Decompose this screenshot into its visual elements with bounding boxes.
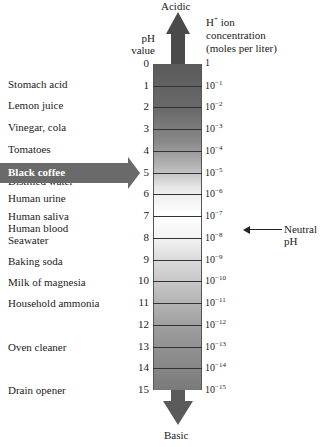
basic-arrow-icon xyxy=(163,401,193,425)
ph-value: 14 xyxy=(129,361,149,373)
ph-value: 7 xyxy=(129,209,149,221)
scale-tick xyxy=(153,151,202,152)
ph-value: 9 xyxy=(129,253,149,265)
ph-value: 15 xyxy=(129,383,149,395)
h-concentration: 10−3 xyxy=(205,122,222,134)
ph-value: 8 xyxy=(129,231,149,243)
substance-label: Vinegar, cola xyxy=(8,121,66,133)
concentration-line3: (moles per liter) xyxy=(206,42,277,55)
substance-label: Household ammonia xyxy=(8,297,99,309)
ph-scale-column xyxy=(153,64,202,390)
scale-tick xyxy=(153,281,202,282)
h-concentration: 10−2 xyxy=(205,100,222,112)
acidic-arrow-shaft xyxy=(171,33,185,64)
neutral-arrow-line xyxy=(249,229,282,230)
ph-header-line1: pH xyxy=(127,32,155,44)
neutral-ph-label: Neutral pH xyxy=(284,223,332,247)
substance-label: Human urine xyxy=(8,192,66,204)
scale-tick xyxy=(153,216,202,217)
scale-tick xyxy=(153,260,202,261)
h-concentration: 10−13 xyxy=(205,340,226,352)
h-concentration: 10−9 xyxy=(205,253,222,265)
ph-value: 0 xyxy=(129,57,149,69)
scale-tick xyxy=(153,347,202,348)
highlight-arrow-icon xyxy=(128,157,140,189)
scale-tick xyxy=(153,129,202,130)
acidic-label: Acidic xyxy=(161,0,190,12)
ph-header: pH value xyxy=(127,32,155,56)
ph-value: 1 xyxy=(129,79,149,91)
scale-tick xyxy=(153,238,202,239)
ph-value: 12 xyxy=(129,318,149,330)
ph-value: 3 xyxy=(129,122,149,134)
substance-label: Human saliva xyxy=(8,210,69,222)
h-concentration: 10−8 xyxy=(205,231,222,243)
scale-tick xyxy=(153,368,202,369)
h-symbol: H xyxy=(206,16,214,28)
ph-value: 2 xyxy=(129,100,149,112)
ph-header-line2: value xyxy=(127,44,155,56)
scale-tick xyxy=(153,107,202,108)
h-concentration: 10−11 xyxy=(205,296,226,308)
ph-value: 10 xyxy=(129,274,149,286)
substance-label: Seawater xyxy=(8,234,48,246)
basic-label: Basic xyxy=(164,429,188,441)
substance-label: Human blood xyxy=(8,222,68,234)
concentration-line2: concentration xyxy=(206,29,277,42)
h-concentration: 10−10 xyxy=(205,274,226,286)
ph-value: 13 xyxy=(129,340,149,352)
scale-tick xyxy=(153,194,202,195)
scale-tick xyxy=(153,173,202,174)
h-concentration: 10−12 xyxy=(205,318,226,330)
acidic-arrow-icon xyxy=(166,12,190,34)
ph-value: 4 xyxy=(129,144,149,156)
scale-tick xyxy=(153,303,202,304)
scale-tick xyxy=(153,325,202,326)
ph-value: 11 xyxy=(129,296,149,308)
neutral-arrow-icon xyxy=(243,226,250,234)
scale-tick xyxy=(153,86,202,87)
h-concentration: 10−14 xyxy=(205,361,226,373)
h-concentration: 10−1 xyxy=(205,79,222,91)
h-concentration: 10−5 xyxy=(205,166,222,178)
substance-label: Baking soda xyxy=(8,255,63,267)
concentration-header: H+ ion concentration (moles per liter) xyxy=(206,13,277,55)
substance-label: Milk of magnesia xyxy=(8,276,86,288)
substance-label: Lemon juice xyxy=(8,99,63,111)
highlight-label: Black coffee xyxy=(8,166,65,178)
substance-label: Oven cleaner xyxy=(8,341,66,353)
h-concentration: 10−15 xyxy=(205,383,226,395)
h-concentration: 10−4 xyxy=(205,144,222,156)
substance-label: Drain opener xyxy=(8,384,66,396)
h-ion-text: ion xyxy=(218,16,235,28)
h-concentration: 10−6 xyxy=(205,187,222,199)
substance-label: Tomatoes xyxy=(8,143,51,155)
h-concentration: 1 xyxy=(205,57,210,68)
substance-label: Stomach acid xyxy=(8,78,68,90)
h-concentration: 10−7 xyxy=(205,209,222,221)
